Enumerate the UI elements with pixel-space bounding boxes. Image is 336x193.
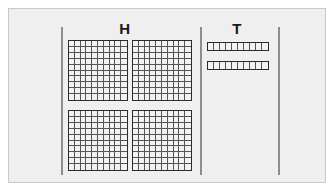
unit-cell — [121, 164, 127, 170]
hundred-flat-block — [68, 110, 128, 171]
place-value-divider-left — [61, 27, 63, 175]
hundred-flat-block — [132, 40, 192, 101]
ten-rod-block — [207, 42, 269, 51]
unit-cell — [262, 62, 268, 69]
hundreds-column — [68, 40, 192, 171]
column-header-tens: T — [217, 21, 257, 37]
hundred-flat-block — [68, 40, 128, 101]
hundred-flat-block — [132, 110, 192, 171]
unit-cell — [121, 94, 127, 100]
column-header-hundreds: H — [105, 21, 145, 37]
place-value-divider-middle — [200, 27, 202, 175]
tens-column — [207, 42, 273, 92]
place-value-figure-frame: H T — [8, 8, 326, 183]
place-value-divider-right — [278, 27, 280, 175]
unit-cell — [185, 164, 191, 170]
ten-rod-block — [207, 61, 269, 70]
unit-cell — [262, 43, 268, 50]
unit-cell — [185, 94, 191, 100]
